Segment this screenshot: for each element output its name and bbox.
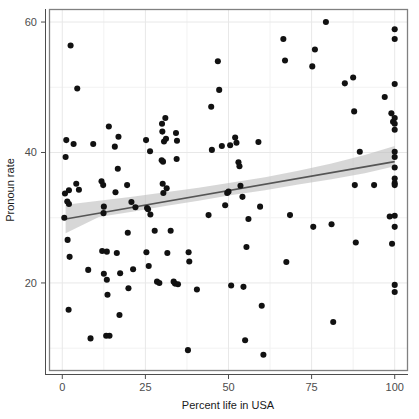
data-point [240, 284, 246, 290]
data-point [287, 212, 293, 218]
data-point [147, 148, 153, 154]
data-point [63, 137, 69, 143]
x-tick-label: 25 [139, 381, 151, 393]
data-point [392, 154, 398, 160]
data-point [323, 19, 329, 25]
data-point [160, 181, 166, 187]
data-point [353, 239, 359, 245]
data-point [104, 292, 110, 298]
data-point [76, 187, 82, 193]
data-point [159, 121, 165, 127]
data-point [242, 337, 248, 343]
data-point [68, 42, 74, 48]
data-point [206, 212, 212, 218]
data-point [117, 270, 123, 276]
data-point [392, 26, 398, 32]
data-point [209, 147, 215, 153]
data-point [104, 277, 110, 283]
data-point [392, 282, 398, 288]
x-tick-label: 50 [222, 381, 234, 393]
data-point [194, 286, 200, 292]
data-point [73, 181, 79, 187]
data-point [143, 249, 149, 255]
data-point [185, 347, 191, 353]
data-point [392, 213, 398, 219]
data-point [74, 86, 80, 92]
data-point [329, 221, 335, 227]
data-point [186, 249, 192, 255]
data-point [145, 206, 151, 212]
data-point [152, 228, 158, 234]
data-point [63, 154, 69, 160]
data-point [101, 204, 107, 210]
data-point [233, 140, 239, 146]
data-point [125, 230, 131, 236]
data-point [232, 134, 238, 140]
data-point [159, 129, 165, 135]
data-point [228, 283, 234, 289]
scatter-plot-figure: 0255075100 204060 Percent life in USA Pr… [0, 0, 419, 419]
data-point [112, 189, 118, 195]
data-point [164, 250, 170, 256]
data-point [392, 81, 398, 87]
data-point [132, 204, 138, 210]
data-point [101, 271, 107, 277]
data-point [114, 250, 120, 256]
data-point [225, 189, 231, 195]
x-tick-label: 100 [386, 381, 404, 393]
y-tick-label: 20 [25, 277, 37, 289]
data-point [106, 333, 112, 339]
data-point [175, 281, 181, 287]
data-point [245, 216, 251, 222]
data-point [239, 194, 245, 200]
x-tick-label: 75 [305, 381, 317, 393]
data-point [147, 211, 153, 217]
y-tick-label: 60 [25, 16, 37, 28]
data-point [106, 123, 112, 129]
data-point [216, 87, 222, 93]
x-axis-title: Percent life in USA [182, 399, 275, 411]
data-point [342, 80, 348, 86]
data-point [174, 156, 180, 162]
data-point [312, 46, 318, 52]
data-point [208, 104, 214, 110]
data-point [282, 57, 288, 63]
data-point [283, 259, 289, 265]
data-point [392, 36, 398, 42]
data-point [392, 224, 398, 230]
y-tick-label: 40 [25, 146, 37, 158]
data-point [392, 149, 398, 155]
data-point [168, 228, 174, 234]
data-point [173, 130, 179, 136]
data-point [65, 237, 71, 243]
data-point [71, 141, 77, 147]
data-point [351, 108, 357, 114]
data-point [389, 241, 395, 247]
data-point [162, 115, 168, 121]
data-point [227, 142, 233, 148]
data-point [88, 335, 94, 341]
data-point [259, 303, 265, 309]
data-point [371, 182, 377, 188]
data-point [66, 307, 72, 313]
data-point [116, 312, 122, 318]
data-point [350, 74, 356, 80]
data-point [115, 166, 121, 172]
data-point [382, 94, 388, 100]
data-point [309, 63, 315, 69]
data-point [146, 263, 152, 269]
data-point [310, 224, 316, 230]
data-point [104, 249, 110, 255]
data-point [330, 319, 336, 325]
data-point [66, 201, 72, 207]
data-point [100, 210, 106, 216]
data-point [392, 289, 398, 295]
data-point [67, 254, 73, 260]
data-point [124, 182, 130, 188]
data-point [160, 159, 166, 165]
data-point [280, 36, 286, 42]
data-point [257, 204, 263, 210]
data-point [100, 182, 106, 188]
data-point [61, 215, 67, 221]
data-point [357, 149, 363, 155]
